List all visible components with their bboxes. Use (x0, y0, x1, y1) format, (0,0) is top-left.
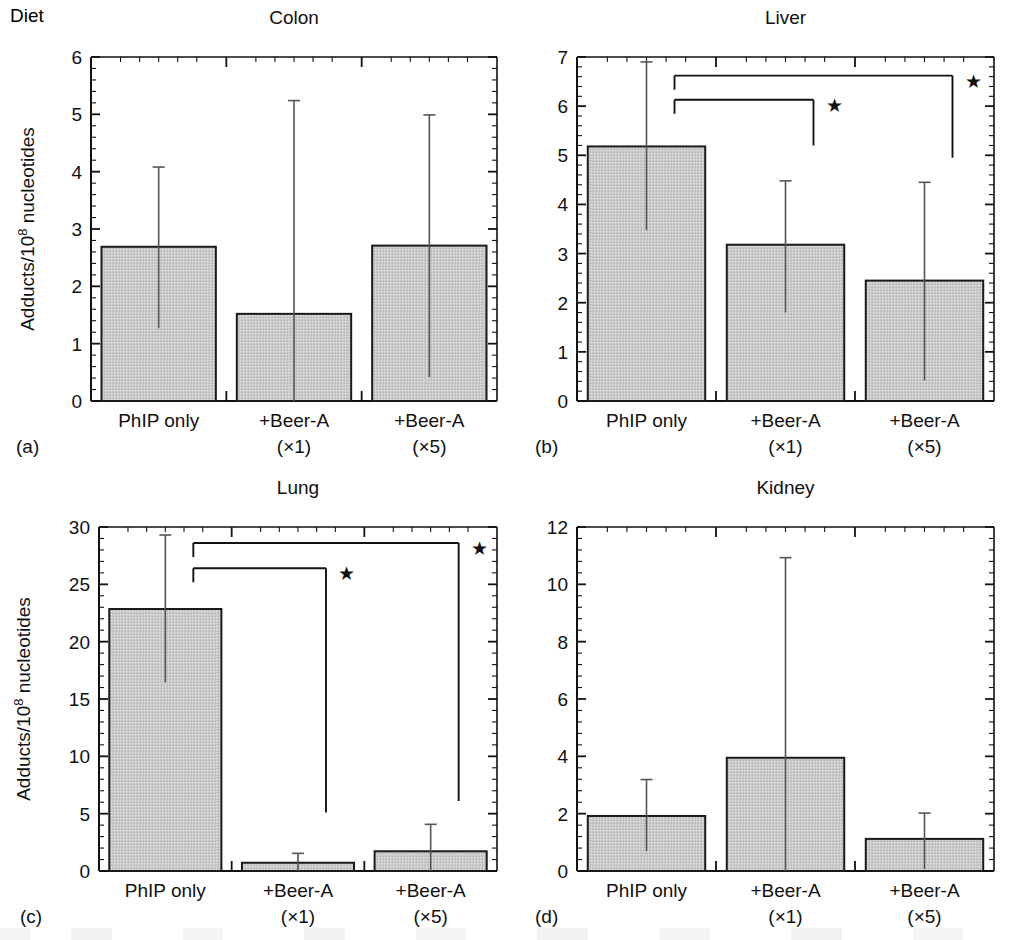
y-tick-label: 3 (557, 244, 568, 265)
x-category-sublabel: (×1) (768, 436, 802, 457)
significance-star: ★ (826, 95, 843, 116)
x-category-label: +Beer-A (889, 880, 960, 901)
bar-group (101, 167, 215, 401)
x-category-label: PhIP only (118, 410, 199, 431)
y-tick-label: 6 (557, 96, 568, 117)
x-category-label-group: PhIP only+Beer-A(×1)+Beer-A(×5) (118, 410, 465, 457)
y-tick-label: 6 (71, 47, 82, 68)
figure-four-panel-bar-charts: Diet Colon0123456PhIP only+Beer-A(×1)+Be… (0, 0, 1014, 940)
y-tick-label: 4 (71, 162, 82, 183)
x-category-label-group: PhIP only+Beer-A(×1)+Beer-A(×5) (606, 410, 960, 457)
y-tick-label: 30 (69, 517, 90, 538)
chart-d-svg: Kidney024681012PhIP only+Beer-A(×1)+Beer… (507, 470, 1014, 940)
panel-letter: (c) (20, 906, 42, 927)
panel-letter: (a) (16, 436, 39, 457)
x-category-label: PhIP only (606, 410, 687, 431)
x-category-label: +Beer-A (396, 880, 467, 901)
y-tick-label: 2 (557, 293, 568, 314)
bar-group (588, 780, 705, 871)
panel-letter: (b) (535, 436, 558, 457)
y-tick-label: 12 (547, 517, 568, 538)
x-category-label: PhIP only (125, 880, 206, 901)
bar-group (375, 824, 487, 871)
x-category-sublabel: (×1) (768, 906, 802, 927)
page-bottom-artifact (0, 928, 1014, 940)
y-tick-label: 5 (557, 145, 568, 166)
y-axis-label-tail: nucleotides (17, 127, 38, 228)
y-tick-label: 2 (557, 804, 568, 825)
significance-bracket: ★ (675, 95, 843, 146)
x-category-label-group: PhIP only+Beer-A(×1)+Beer-A(×5) (125, 880, 466, 927)
y-tick-label: 0 (79, 861, 90, 882)
y-tick-label: 0 (557, 861, 568, 882)
bar-group (727, 558, 844, 871)
y-tick-label: 5 (79, 804, 90, 825)
x-category-label: +Beer-A (750, 880, 821, 901)
panel-title: Liver (765, 7, 807, 28)
chart-c-svg: Lung051015202530★★PhIP only+Beer-A(×1)+B… (0, 470, 507, 940)
y-axis-label: Adducts/108 nucleotides (11, 597, 34, 801)
y-tick-label-group: 051015202530 (69, 517, 90, 882)
panel-c-lung: Lung051015202530★★PhIP only+Beer-A(×1)+B… (0, 470, 507, 940)
y-axis-label: Adducts/108 nucleotides (15, 127, 38, 331)
y-tick-label: 25 (69, 574, 90, 595)
bar-group (727, 181, 844, 401)
chart-b-svg: Liver01234567★★PhIP only+Beer-A(×1)+Beer… (507, 0, 1014, 470)
bar-group (237, 101, 351, 401)
x-category-sublabel: (×5) (414, 906, 448, 927)
y-tick-label: 20 (69, 632, 90, 653)
significance-star: ★ (965, 71, 982, 92)
y-tick-label: 0 (71, 391, 82, 412)
y-tick-label: 1 (557, 342, 568, 363)
significance-star: ★ (471, 538, 488, 559)
x-category-sublabel: (×5) (907, 436, 941, 457)
x-category-label: PhIP only (606, 880, 687, 901)
panel-b-liver: Liver01234567★★PhIP only+Beer-A(×1)+Beer… (507, 0, 1014, 470)
y-tick-label: 1 (71, 334, 82, 355)
x-category-label-group: PhIP only+Beer-A(×1)+Beer-A(×5) (606, 880, 960, 927)
panel-grid: Diet Colon0123456PhIP only+Beer-A(×1)+Be… (0, 0, 1014, 940)
bar-group (109, 535, 221, 871)
chart-a-svg: Colon0123456PhIP only+Beer-A(×1)+Beer-A(… (0, 0, 507, 470)
y-tick-label-group: 0123456 (71, 47, 82, 412)
panel-title: Kidney (756, 477, 815, 498)
x-category-label: +Beer-A (394, 410, 465, 431)
y-tick-label: 3 (71, 219, 82, 240)
bar-group (242, 853, 354, 871)
y-tick-label: 7 (557, 47, 568, 68)
significance-star: ★ (338, 563, 355, 584)
y-axis-label-main: Adducts/10 (17, 236, 38, 331)
y-tick-label: 4 (557, 746, 568, 767)
y-tick-label-group: 024681012 (547, 517, 569, 882)
bar-group (588, 62, 705, 401)
y-tick-label: 0 (557, 391, 568, 412)
panel-letter: (d) (535, 906, 558, 927)
x-category-sublabel: (×5) (412, 436, 446, 457)
y-tick-label: 5 (71, 104, 82, 125)
panel-a-colon: Diet Colon0123456PhIP only+Beer-A(×1)+Be… (0, 0, 507, 470)
y-tick-label-group: 01234567 (557, 47, 568, 412)
y-tick-label: 15 (69, 689, 90, 710)
y-axis-label-main: Adducts/10 (13, 706, 34, 801)
bar-group (866, 182, 983, 401)
panel-d-kidney: Kidney024681012PhIP only+Beer-A(×1)+Beer… (507, 470, 1014, 940)
y-tick-label: 8 (557, 632, 568, 653)
y-tick-label: 2 (71, 276, 82, 297)
y-tick-label: 10 (547, 574, 568, 595)
panel-title: Lung (277, 477, 319, 498)
bar-group (866, 813, 983, 871)
y-axis-label-tail: nucleotides (13, 597, 34, 698)
x-category-sublabel: (×1) (277, 436, 311, 457)
x-category-label: +Beer-A (889, 410, 960, 431)
x-category-label: +Beer-A (263, 880, 334, 901)
y-axis-label-superscript: 8 (15, 229, 30, 236)
y-tick-label: 4 (557, 194, 568, 215)
bar-group (372, 115, 486, 401)
y-tick-label: 10 (69, 746, 90, 767)
y-axis-label-superscript: 8 (11, 699, 26, 706)
x-category-sublabel: (×5) (907, 906, 941, 927)
x-category-label: +Beer-A (259, 410, 330, 431)
x-category-sublabel: (×1) (281, 906, 315, 927)
y-tick-label: 6 (557, 689, 568, 710)
panel-title: Colon (269, 7, 319, 28)
